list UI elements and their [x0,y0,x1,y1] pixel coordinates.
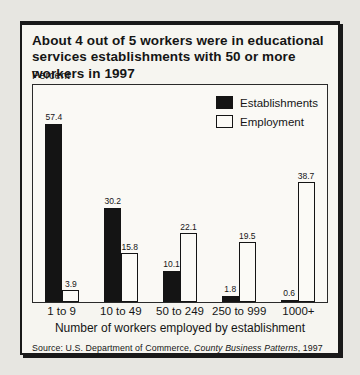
legend-item-establishments: Establishments [216,96,318,109]
bar-value-label: 38.7 [298,171,315,181]
bar-value-label: 1.8 [224,284,236,294]
x-category-label: 1 to 9 [32,305,91,317]
legend-label-establishments: Establishments [240,97,318,109]
x-category-label: 250 to 999 [210,305,269,317]
x-axis-title: Number of workers employed by establishm… [32,321,328,335]
chart-title: About 4 out of 5 workers were in educati… [32,33,330,82]
bar-value-label: 19.5 [239,231,256,241]
bar-value-label: 57.4 [46,112,63,122]
bar-value-label: 22.1 [180,222,197,232]
bar-value-label: 10.1 [163,259,180,269]
bar-value-label: 3.9 [65,279,77,289]
establishments-bar: 0.6 [281,300,298,302]
employment-bar: 19.5 [239,242,256,302]
x-axis-category-row: 1 to 910 to 4950 to 249250 to 9991000+ [32,305,328,317]
x-category-label: 50 to 249 [150,305,209,317]
bar-group-1000plus: 0.638.7 [281,182,315,302]
bar-value-label: 0.6 [283,288,295,298]
bar-value-label: 15.8 [121,242,138,252]
establishments-bar: 1.8 [222,296,239,302]
x-category-label: 1000+ [269,305,328,317]
figure-box: About 4 out of 5 workers were in educati… [20,21,340,355]
source-publication: County Business Patterns [194,343,298,353]
employment-bar: 22.1 [180,233,197,302]
employment-bar: 15.8 [121,253,138,302]
establishments-bar: 30.2 [104,208,121,302]
x-category-label: 10 to 49 [91,305,150,317]
bar-group-50-to-249: 10.122.1 [163,233,197,302]
bar-group-250-to-999: 1.819.5 [222,242,256,302]
establishments-swatch-icon [216,96,233,109]
bar-groups: 57.43.930.215.810.122.11.819.50.638.7 [33,124,327,302]
bar-group-10-to-49: 30.215.8 [104,208,138,302]
y-axis-unit-label: Percent [32,69,70,81]
establishments-bar: 57.4 [45,124,62,302]
bar-group-1-to-9: 57.43.9 [45,124,79,302]
bar-value-label: 30.2 [104,196,121,206]
source-suffix: , 1997 [298,343,323,353]
plot-area: Establishments Employment 57.43.930.215.… [32,84,328,303]
source-prefix: Source: U.S. Department of Commerce, [32,343,194,353]
source-note: Source: U.S. Department of Commerce, Cou… [32,343,332,353]
employment-bar: 38.7 [298,182,315,302]
employment-bar: 3.9 [62,290,79,302]
establishments-bar: 10.1 [163,271,180,302]
